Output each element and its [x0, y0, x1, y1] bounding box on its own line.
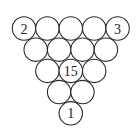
- circle-r4-c2: [71, 80, 94, 103]
- circle-r1-c3: [59, 17, 82, 40]
- circle-r3-c2: 15: [59, 59, 82, 82]
- circle-r4-c1: [47, 80, 70, 103]
- circle: [36, 17, 59, 40]
- circle: [47, 38, 70, 61]
- circle-r1-c5: 3: [106, 17, 129, 40]
- circle-r2-c1: [24, 38, 47, 61]
- circle: [83, 17, 106, 40]
- circle-triangle-diagram: 23151: [0, 0, 140, 129]
- circle: [24, 38, 47, 61]
- circle: [47, 80, 70, 103]
- circle-label: 15: [64, 64, 78, 79]
- circle-group: 23151: [12, 17, 129, 125]
- circle-r3-c3: [83, 59, 106, 82]
- circle: [36, 59, 59, 82]
- circle: [83, 59, 106, 82]
- circle: [59, 17, 82, 40]
- circle-r2-c4: [94, 38, 117, 61]
- circle-r1-c1: 2: [12, 17, 35, 40]
- circle-label: 1: [67, 106, 74, 121]
- circle: [71, 38, 94, 61]
- circle: [71, 80, 94, 103]
- circle-r2-c2: [47, 38, 70, 61]
- circle-r2-c3: [71, 38, 94, 61]
- circle-r3-c1: [36, 59, 59, 82]
- circle-label: 3: [114, 22, 121, 37]
- circle: [94, 38, 117, 61]
- circle-label: 2: [21, 22, 28, 37]
- circle-r1-c4: [83, 17, 106, 40]
- circle-r1-c2: [36, 17, 59, 40]
- circle-r5-c1: 1: [59, 102, 82, 125]
